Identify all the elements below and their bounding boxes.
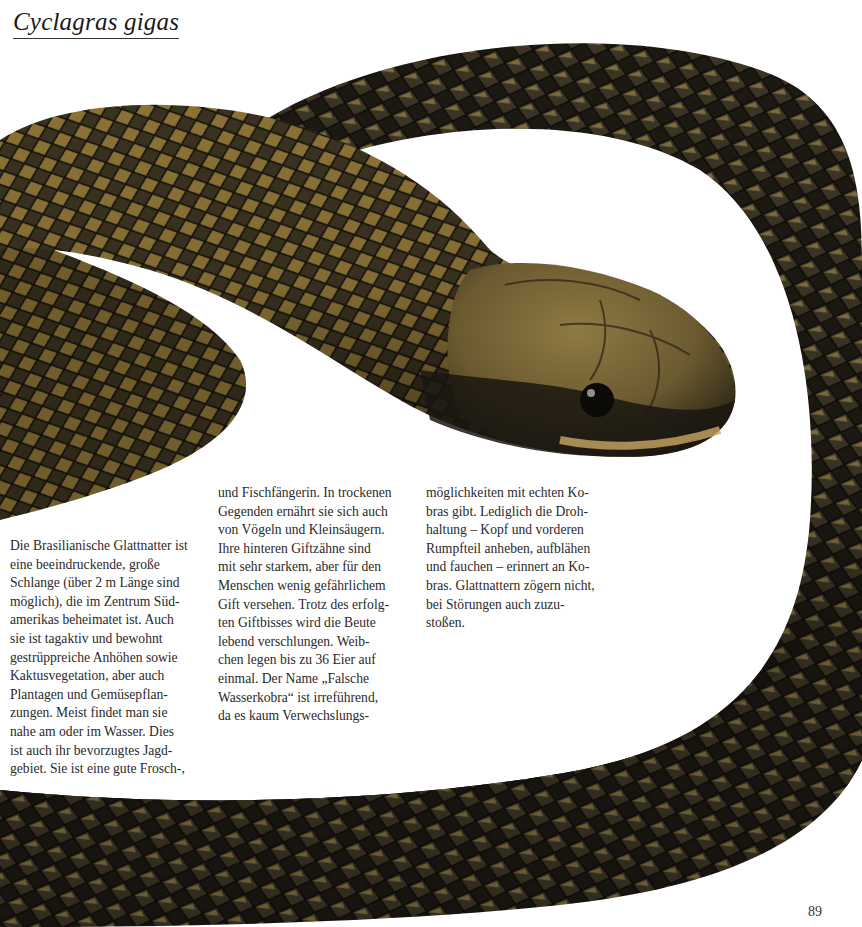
- text-line: Menschen wenig gefährlichem: [218, 577, 392, 596]
- text-line: von Vögeln und Kleinsäugern.: [218, 521, 392, 540]
- text-line: und Fischfängerin. In trockenen: [218, 484, 392, 503]
- text-line: Plantagen und Gemüsepflan-: [10, 686, 188, 705]
- text-line: bras gibt. Lediglich die Droh-: [426, 503, 595, 522]
- text-line: möglich), die im Zentrum Süd-: [10, 593, 188, 612]
- text-line: stoßen.: [426, 614, 595, 633]
- text-line: ist auch ihr bevorzugtes Jagd-: [10, 742, 188, 761]
- text-line: Wasserkobra“ ist irreführend,: [218, 689, 392, 708]
- text-line: einmal. Der Name „Falsche: [218, 670, 392, 689]
- text-line: Gegenden ernährt sie sich auch: [218, 503, 392, 522]
- text-line: möglichkeiten mit echten Ko-: [426, 484, 595, 503]
- text-line: Rumpfteil anheben, aufblähen: [426, 540, 595, 559]
- text-line: eine beeindruckende, große: [10, 556, 188, 575]
- text-line: Kaktusvegetation, aber auch: [10, 667, 188, 686]
- text-line: nahe am oder im Wasser. Dies: [10, 723, 188, 742]
- text-line: gebiet. Sie ist eine gute Frosch-,: [10, 760, 188, 779]
- page-title: Cyclagras gigas: [13, 8, 179, 39]
- text-line: ten Giftbisses wird die Beute: [218, 614, 392, 633]
- text-line: lebend verschlungen. Weib-: [218, 633, 392, 652]
- page-number: 89: [808, 904, 822, 920]
- text-line: chen legen bis zu 36 Eier auf: [218, 651, 392, 670]
- text-line: mit sehr starkem, aber für den: [218, 558, 392, 577]
- text-line: da es kaum Verwechslungs-: [218, 707, 392, 726]
- text-line: Schlange (über 2 m Länge sind: [10, 574, 188, 593]
- text-line: sie ist tagaktiv und bewohnt: [10, 630, 188, 649]
- text-line: gestrüppreiche Anhöhen sowie: [10, 649, 188, 668]
- text-line: Ihre hinteren Giftzähne sind: [218, 540, 392, 559]
- text-line: haltung – Kopf und vorderen: [426, 521, 595, 540]
- text-line: Die Brasilianische Glattnatter ist: [10, 537, 188, 556]
- text-line: amerikas beheimatet ist. Auch: [10, 611, 188, 630]
- text-column-2: und Fischfängerin. In trockenen Gegenden…: [218, 484, 392, 726]
- text-line: zungen. Meist findet man sie: [10, 704, 188, 723]
- text-line: bei Störungen auch zuzu-: [426, 596, 595, 615]
- text-column-3: möglichkeiten mit echten Ko- bras gibt. …: [426, 484, 595, 633]
- text-column-1: Die Brasilianische Glattnatter ist eine …: [10, 537, 188, 779]
- snake-photo: [0, 0, 862, 927]
- text-line: Gift versehen. Trotz des erfolg-: [218, 596, 392, 615]
- text-line: bras. Glattnattern zögern nicht,: [426, 577, 595, 596]
- text-line: und fauchen – erinnert an Ko-: [426, 558, 595, 577]
